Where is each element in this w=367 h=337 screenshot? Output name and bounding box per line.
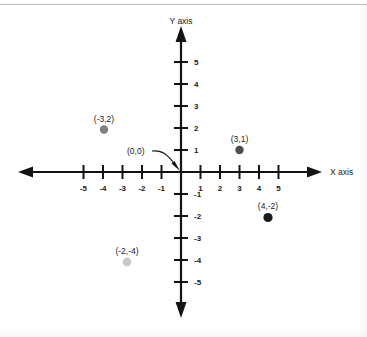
y-tick-label--2: -2 (194, 212, 202, 221)
y-tick-label--1: -1 (194, 190, 202, 199)
y-tick-label-4: 4 (194, 80, 199, 89)
data-point-4--2[interactable] (263, 213, 272, 222)
origin-leader-arrowhead (172, 161, 181, 171)
x-tick-label-5: 5 (276, 184, 281, 193)
x-axis-left-arrowhead (18, 167, 33, 178)
x-tick-label-3: 3 (237, 184, 242, 193)
y-tick-label-2: 2 (194, 124, 199, 133)
data-point-3-1[interactable] (235, 146, 243, 154)
x-axis-title: X axis (330, 167, 353, 177)
x-tick-label-2: 2 (218, 184, 223, 193)
y-tick-label--4: -4 (194, 256, 202, 265)
y-tick-label-1: 1 (194, 146, 199, 155)
y-axis-top-arrowhead (176, 26, 187, 42)
chart-canvas: -5 -4 -3 -2 -1 1 2 3 4 5 5 4 3 2 1 -1 -2… (0, 0, 367, 337)
point-label--3-2: (-3,2) (94, 114, 114, 124)
data-point--3-2[interactable] (100, 125, 108, 133)
point-label-4--2: (4,-2) (258, 201, 278, 211)
point-label-3-1: (3,1) (231, 134, 249, 144)
cartesian-plane: -5 -4 -3 -2 -1 1 2 3 4 5 5 4 3 2 1 -1 -2… (0, 0, 367, 337)
y-axis-title: Y axis (170, 16, 193, 26)
y-tick-label--5: -5 (194, 278, 202, 287)
x-tick-label--5: -5 (80, 184, 88, 193)
x-tick-label--2: -2 (138, 184, 146, 193)
y-tick-label-3: 3 (194, 102, 199, 111)
x-axis-right-arrowhead (307, 167, 322, 178)
y-axis-bottom-arrowhead (176, 302, 187, 318)
data-point--2--4[interactable] (123, 258, 132, 267)
point-label--2--4: (-2,-4) (115, 246, 138, 256)
x-tick-label--3: -3 (119, 184, 127, 193)
y-tick-label-5: 5 (194, 58, 199, 67)
origin-label: (0,0) (127, 146, 145, 156)
x-tick-label--1: -1 (158, 184, 166, 193)
y-tick-label--3: -3 (194, 234, 202, 243)
x-tick-label-4: 4 (257, 184, 262, 193)
x-tick-label--4: -4 (99, 184, 107, 193)
